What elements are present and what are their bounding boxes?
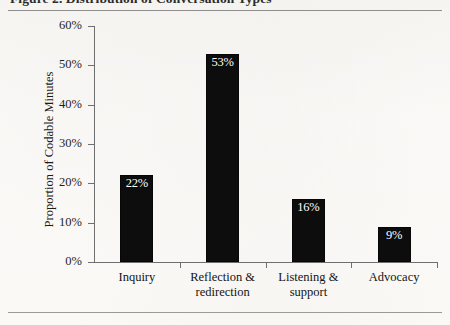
y-axis-tick-label: 10% xyxy=(2,216,82,229)
y-axis-tick-label: 60% xyxy=(2,19,82,32)
x-axis-category-label-line: Listening & xyxy=(266,270,352,285)
y-axis-tick xyxy=(88,144,94,145)
y-axis-tick xyxy=(88,26,94,27)
bar[interactable] xyxy=(206,54,239,262)
x-axis-category-label-line: Inquiry xyxy=(94,270,180,285)
x-axis-category-label: Reflection &redirection xyxy=(180,270,266,300)
bar-value-label: 9% xyxy=(364,229,424,242)
y-axis-tick xyxy=(88,223,94,224)
y-axis-tick-label: 50% xyxy=(2,58,82,71)
x-axis-tick xyxy=(180,262,181,268)
y-axis-tick-label: 40% xyxy=(2,98,82,111)
y-axis-line xyxy=(94,26,95,262)
x-axis-category-label-line: support xyxy=(266,285,352,300)
x-axis-category-label: Inquiry xyxy=(94,270,180,285)
x-axis-category-label-line: Reflection & xyxy=(180,270,266,285)
bar-value-label: 22% xyxy=(107,177,167,190)
y-axis-tick xyxy=(88,105,94,106)
y-axis-tick xyxy=(88,65,94,66)
bar-value-label: 53% xyxy=(193,56,253,69)
x-axis-category-label: Listening &support xyxy=(266,270,352,300)
x-axis-category-label: Advocacy xyxy=(351,270,437,285)
x-axis-tick xyxy=(266,262,267,268)
x-axis-tick xyxy=(437,262,438,268)
y-axis-tick-label: 30% xyxy=(2,137,82,150)
x-axis-category-label-line: redirection xyxy=(180,285,266,300)
bar-value-label: 16% xyxy=(278,201,338,214)
x-axis-category-label-line: Advocacy xyxy=(351,270,437,285)
y-axis-tick-label: 0% xyxy=(2,255,82,268)
y-axis-tick-label: 20% xyxy=(2,176,82,189)
y-axis-tick xyxy=(88,183,94,184)
x-axis-tick xyxy=(351,262,352,268)
y-axis-tick xyxy=(88,262,94,263)
bar-chart-plot-area: Proportion of Codable Minutes 60%50%40%3… xyxy=(0,0,450,325)
